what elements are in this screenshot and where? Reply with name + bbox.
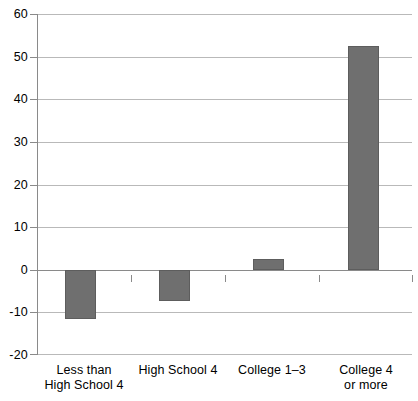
- y-tick-minus20: [30, 354, 37, 355]
- x-axis-label-college-1-3: College 1–3: [225, 363, 319, 378]
- bar-college-1-3: [253, 259, 284, 270]
- x-tick-3: [319, 275, 320, 282]
- x-tick-1: [131, 275, 132, 282]
- x-axis-label-line2: High School 4: [37, 378, 131, 393]
- bar-college-4-or-more: [348, 46, 379, 270]
- y-axis-label-minus20: -20: [0, 349, 28, 361]
- y-axis-label-30: 30: [0, 136, 28, 148]
- bar-chart: 60 50 40 30 20 10 0 -10 -20 Less than Hi…: [0, 0, 418, 401]
- y-tick-10: [30, 227, 37, 228]
- x-axis-label-college-4-or-more: College 4 or more: [319, 363, 413, 393]
- y-tick-20: [30, 185, 37, 186]
- y-axis-label-50: 50: [0, 51, 28, 63]
- y-tick-minus10: [30, 312, 37, 313]
- y-axis-label-0: 0: [0, 264, 28, 276]
- y-axis-label-10: 10: [0, 221, 28, 233]
- y-axis-line: [37, 14, 38, 355]
- y-tick-40: [30, 99, 37, 100]
- x-axis-label-less-than-high-school-4: Less than High School 4: [37, 363, 131, 393]
- x-axis-label-line2: or more: [319, 378, 413, 393]
- x-axis-label-line1: High School 4: [138, 363, 217, 377]
- bar-less-than-high-school-4: [65, 270, 96, 319]
- bar-high-school-4: [159, 270, 190, 301]
- y-tick-60: [30, 14, 37, 15]
- y-axis-label-20: 20: [0, 179, 28, 191]
- y-axis-label-minus10: -10: [0, 306, 28, 318]
- x-axis-label-line1: College 4: [339, 363, 393, 377]
- x-axis-label-line1: College 1–3: [238, 363, 306, 377]
- plot-area: [37, 14, 412, 355]
- clipped-caption: [185, 392, 415, 401]
- x-axis-label-line1: Less than: [56, 363, 111, 377]
- y-axis-label-40: 40: [0, 93, 28, 105]
- gridline-minus20: [37, 354, 412, 355]
- y-tick-30: [30, 142, 37, 143]
- y-axis-label-60: 60: [0, 8, 28, 20]
- gridline-60: [37, 14, 412, 15]
- y-tick-50: [30, 57, 37, 58]
- x-tick-2: [225, 275, 226, 282]
- x-axis-label-high-school-4: High School 4: [131, 363, 225, 378]
- y-tick-0: [30, 270, 37, 271]
- x-tick-4: [412, 275, 413, 282]
